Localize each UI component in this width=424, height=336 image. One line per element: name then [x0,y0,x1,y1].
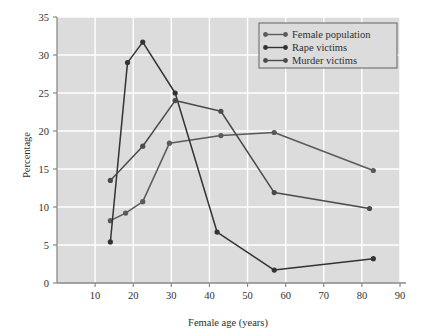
x-tick-label: 10 [90,290,101,301]
x-tick-label: 20 [128,290,139,301]
legend-marker [283,32,288,37]
legend-marker [283,45,288,50]
x-tick-label: 30 [166,290,177,301]
y-tick-label: 5 [44,240,49,251]
x-tick-label: 60 [280,290,291,301]
data-point [371,256,376,261]
chart-legend: Female populationRape victimsMurder vict… [259,23,397,68]
y-tick-label: 10 [39,202,50,213]
data-point [173,98,178,103]
data-point [108,178,113,183]
y-axis-title: Percentage [21,132,32,178]
data-point [173,90,178,95]
x-tick-label: 70 [319,290,330,301]
x-axis-tick-labels: 102030405060708090 [90,290,405,301]
y-tick-label: 0 [44,278,49,289]
data-point [367,206,372,211]
data-point [140,199,145,204]
data-point [272,267,277,272]
legend-marker [263,45,268,50]
data-point [214,229,219,234]
line-chart-figure: 05101520253035 102030405060708090 Female… [0,0,424,336]
y-tick-label: 35 [39,12,50,23]
data-point [123,210,128,215]
legend-label: Murder victims [292,55,357,66]
data-point [371,168,376,173]
x-tick-label: 40 [204,290,215,301]
y-tick-label: 25 [39,88,50,99]
x-tick-label: 80 [357,290,368,301]
legend-label: Rape victims [292,42,347,53]
x-tick-label: 50 [242,290,253,301]
legend-marker [263,32,268,37]
data-point [272,190,277,195]
data-point [108,239,113,244]
y-tick-label: 30 [39,50,50,61]
data-point [272,130,277,135]
y-tick-label: 20 [39,126,50,137]
data-point [218,109,223,114]
data-point [125,60,130,65]
y-tick-label: 15 [39,164,50,175]
data-point [167,141,172,146]
legend-label: Female population [292,29,371,40]
x-axis-title: Female age (years) [188,317,268,329]
data-point [218,133,223,138]
data-point [140,39,145,44]
data-point [140,144,145,149]
legend-marker [263,58,268,63]
legend-marker [283,58,288,63]
x-tick-label: 90 [395,290,406,301]
